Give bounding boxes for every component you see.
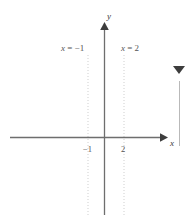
- graph-svg: [0, 0, 190, 215]
- y-axis-arrowhead: [100, 22, 109, 30]
- scrollbar-track[interactable]: [179, 81, 180, 146]
- asymptote-label-x-neg1-value: = −1: [65, 43, 84, 53]
- scrollbar[interactable]: [173, 66, 189, 148]
- x-axis-arrowhead: [160, 133, 168, 142]
- x-tick-label-2: 2: [121, 145, 125, 154]
- y-axis-label: y: [107, 12, 111, 21]
- x-tick-label-neg1: −1: [83, 145, 92, 154]
- triangle-down-icon[interactable]: [173, 66, 185, 74]
- asymptote-label-x-2: x = 2: [121, 44, 139, 53]
- asymptote-label-x-2-value: = 2: [125, 43, 139, 53]
- coordinate-plane-figure: y x x = −1 x = 2 −1 2: [0, 0, 190, 215]
- asymptote-label-x-neg1: x = −1: [61, 44, 84, 53]
